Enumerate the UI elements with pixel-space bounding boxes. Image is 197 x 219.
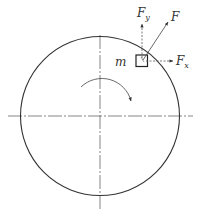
force-x-label-sub: x [184, 61, 189, 70]
force-label: F [170, 10, 180, 24]
force-arrow [143, 22, 168, 60]
mass-label: m [115, 55, 126, 69]
rotation-arrow-icon [81, 78, 131, 101]
disk-force-diagram: m F Fy Fx [0, 0, 197, 219]
force-x-label: Fx [175, 54, 189, 70]
force-y-label: Fy [136, 6, 150, 22]
force-y-label-sub: y [144, 13, 150, 22]
